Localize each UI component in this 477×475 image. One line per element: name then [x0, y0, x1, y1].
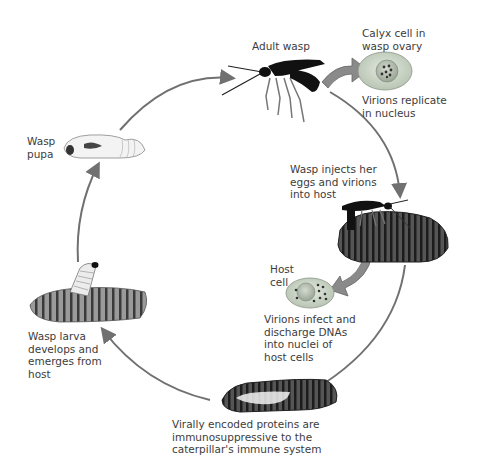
larva-emerging-illustration — [30, 262, 147, 322]
caption-virions-replicate: Virions replicate in nucleus — [362, 94, 447, 119]
label-immunosuppressive: Virally encoded proteins are immunosuppr… — [172, 418, 321, 456]
injection-illustration — [338, 200, 448, 262]
arrow-pupa-to-adult — [120, 77, 232, 130]
life-cycle-artwork — [0, 0, 477, 475]
immunosuppressed-caterpillar-illustration — [222, 379, 337, 412]
label-calyx-cell: Calyx cell in wasp ovary — [362, 27, 425, 52]
label-wasp-injects: Wasp injects her eggs and virions into h… — [290, 163, 377, 201]
wasp-pupa-illustration — [64, 135, 145, 158]
arrow-larva-to-pupa — [78, 165, 98, 262]
label-host-cell: Host cell — [270, 263, 294, 288]
label-wasp-larva: Wasp larva develops and emerges from hos… — [28, 330, 102, 380]
caption-virions-infect: Virions infect and discharge DNAs into n… — [264, 313, 356, 363]
arrow-bottom-to-larva — [103, 330, 210, 400]
calyx-cell-illustration — [358, 52, 412, 90]
adult-wasp-illustration — [222, 60, 325, 122]
label-adult-wasp: Adult wasp — [252, 40, 310, 53]
label-wasp-pupa: Wasp pupa — [27, 135, 55, 160]
